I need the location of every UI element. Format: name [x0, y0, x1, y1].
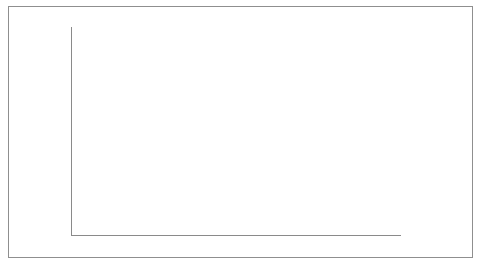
chart-frame: [8, 6, 473, 258]
plot-area: [71, 27, 401, 236]
chart-root: [0, 0, 483, 267]
bar-series-group: [72, 27, 401, 235]
x-axis-ticks: [72, 235, 401, 240]
